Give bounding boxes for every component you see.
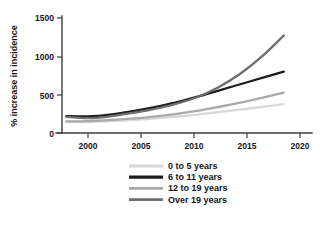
x-tick-label: 2020: [291, 141, 310, 151]
legend-label: 6 to 11 years: [168, 172, 222, 182]
x-tick-label: 2005: [132, 141, 151, 151]
x-tick-label: 2015: [238, 141, 257, 151]
y-axis-title: % increase in incidence: [9, 25, 19, 127]
chart-background: [0, 0, 327, 228]
incidence-line-chart: % increase in incidence 1500 1000 500 0 …: [0, 0, 327, 228]
legend-label: 12 to 19 years: [168, 183, 228, 193]
x-tick-label: 2000: [79, 141, 98, 151]
y-tick-label: 1500: [35, 13, 54, 23]
legend-label: Over 19 years: [168, 195, 227, 205]
y-tick-label: 500: [40, 91, 54, 101]
y-tick-label: 1000: [35, 52, 54, 62]
legend-label: 0 to 5 years: [168, 161, 218, 171]
y-tick-label: 0: [49, 129, 54, 139]
x-tick-label: 2010: [185, 141, 204, 151]
